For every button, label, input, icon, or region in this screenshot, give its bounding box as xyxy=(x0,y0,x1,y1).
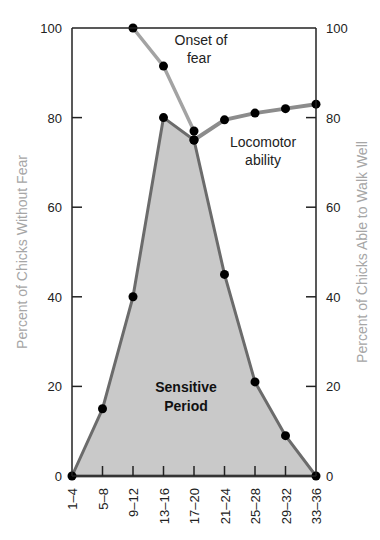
data-point xyxy=(159,62,168,71)
y-tick-label-left: 80 xyxy=(48,111,62,126)
data-point xyxy=(129,292,138,301)
data-point xyxy=(98,404,107,413)
onset-of-fear-label-line2: fear xyxy=(187,50,211,66)
x-tick-label: 1–4 xyxy=(65,488,80,510)
x-tick-label: 5–8 xyxy=(96,488,111,510)
y-tick-label-right: 100 xyxy=(326,21,348,36)
y-tick-label-left: 0 xyxy=(55,469,62,484)
sensitive-period-label-line2: Period xyxy=(164,398,208,414)
onset-of-fear-label-line1: Onset of xyxy=(175,32,228,48)
y-tick-label-right: 80 xyxy=(326,111,340,126)
y-tick-label-left: 100 xyxy=(40,21,62,36)
x-tick-label: 33–36 xyxy=(309,488,324,524)
data-point xyxy=(220,115,229,124)
data-point xyxy=(251,109,260,118)
y-tick-label-left: 40 xyxy=(48,290,62,305)
x-tick-label: 25–28 xyxy=(248,488,263,524)
data-point xyxy=(220,270,229,279)
x-tick-label: 13–16 xyxy=(157,488,172,524)
y-tick-label-right: 60 xyxy=(326,200,340,215)
y-tick-label-right: 0 xyxy=(326,469,333,484)
data-point xyxy=(281,431,290,440)
y-axis-right-title: Percent of Chicks Able to Walk Well xyxy=(354,141,370,363)
y-tick-label-left: 60 xyxy=(48,200,62,215)
sensitive-period-area xyxy=(72,118,316,476)
locomotor-label-line1: Locomotor xyxy=(230,134,296,150)
data-point xyxy=(251,377,260,386)
x-tick-label: 9–12 xyxy=(126,488,141,517)
data-point xyxy=(281,104,290,113)
data-point xyxy=(190,127,199,136)
chart: 002020404060608080100100 1–45–89–1213–16… xyxy=(0,0,380,540)
y-tick-label-right: 40 xyxy=(326,290,340,305)
y-axis-left-title: Percent of Chicks Without Fear xyxy=(14,155,30,349)
locomotor-label-line2: ability xyxy=(245,152,281,168)
y-tick-label-left: 20 xyxy=(48,379,62,394)
y-tick-label-right: 20 xyxy=(326,379,340,394)
data-point xyxy=(190,136,199,145)
x-tick-label: 17–20 xyxy=(187,488,202,524)
sensitive-period-label-line1: Sensitive xyxy=(155,379,217,395)
data-point xyxy=(159,113,168,122)
x-tick-label: 21–24 xyxy=(218,488,233,524)
x-tick-label: 29–32 xyxy=(279,488,294,524)
